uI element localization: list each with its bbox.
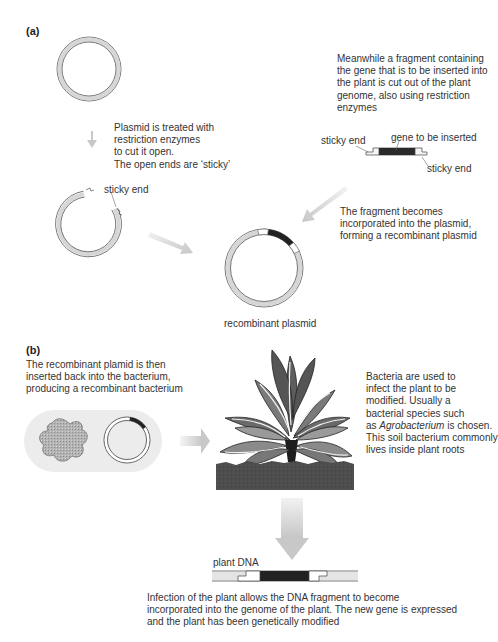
plasmid-cut: [56, 188, 122, 257]
step5-description: Bacteria are used to infect the plant to…: [366, 371, 498, 456]
text-line: the plant is cut out of the plant: [337, 77, 488, 89]
text-line: The recombinant plamid is then: [26, 359, 183, 371]
text-line: enzymes: [337, 102, 488, 114]
text-line: This soil bacterium commonly: [366, 432, 498, 444]
text-line: inserted back into the bacterium,: [26, 371, 183, 383]
text-line: incorporated into the plasmid,: [340, 218, 477, 230]
bacterium-panel: [24, 410, 162, 472]
fragment-sticky-end-right-label: sticky end: [427, 163, 471, 175]
text-line: bacterial species such: [366, 408, 498, 420]
down-arrow-icon: [87, 131, 97, 148]
text-line: infect the plant to be: [366, 383, 498, 395]
text-line: restriction enzymes: [114, 134, 230, 146]
agrobacterium-italic: Agrobacterium: [379, 420, 444, 431]
step3-description: The fragment becomes incorporated into t…: [340, 206, 477, 243]
text-line: The fragment becomes: [340, 206, 477, 218]
text-line: forming a recombinant plasmid: [340, 230, 477, 242]
diagonal-arrow-right: [148, 232, 193, 254]
text-line: The open ends are ‘sticky’: [114, 159, 230, 171]
text-segment: as: [366, 420, 379, 431]
text-segment: is chosen.: [444, 420, 492, 431]
text-line: Meanwhile a fragment containing: [337, 53, 488, 65]
fragment-sticky-end-left-label: sticky end: [321, 135, 365, 147]
plant-dna-strip: [212, 571, 358, 581]
section-b-label: (b): [26, 344, 40, 356]
recombinant-plasmid-label: recombinant plasmid: [224, 318, 316, 330]
step1-description: Plasmid is treated with restriction enzy…: [114, 122, 230, 171]
plant-illustration: [216, 350, 354, 490]
cut-plasmid-sticky-end-label: sticky end: [104, 184, 148, 196]
text-line: incorporated into the genome of the plan…: [147, 604, 457, 616]
gene-to-be-inserted-label: gene to be inserted: [391, 132, 477, 144]
plant-dna-label: plant DNA: [213, 557, 259, 569]
plasmid-intact: [57, 37, 121, 101]
text-line: and the plant has been genetically modif…: [147, 616, 457, 628]
text-line: as Agrobacterium is chosen.: [366, 420, 498, 432]
text-line: lives inside plant roots: [366, 444, 498, 456]
step4-description: The recombinant plamid is then inserted …: [26, 359, 183, 396]
text-line: genome, also using restriction: [337, 90, 488, 102]
text-line: producing a recombinant bacterium: [26, 383, 183, 395]
recombinant-plasmid: [225, 229, 303, 307]
text-line: Plasmid is treated with: [114, 122, 230, 134]
dna-fragment: [356, 141, 428, 166]
text-line: the gene that is to be inserted into: [337, 65, 488, 77]
text-line: modified. Usually a: [366, 395, 498, 407]
final-description: Infection of the plant allows the DNA fr…: [147, 592, 457, 629]
right-arrow-icon: [180, 428, 210, 454]
text-line: to cut it open.: [114, 146, 230, 158]
big-down-arrow-icon: [275, 498, 309, 560]
step2-description: Meanwhile a fragment containing the gene…: [337, 53, 488, 114]
text-line: Infection of the plant allows the DNA fr…: [147, 592, 457, 604]
text-line: Bacteria are used to: [366, 371, 498, 383]
